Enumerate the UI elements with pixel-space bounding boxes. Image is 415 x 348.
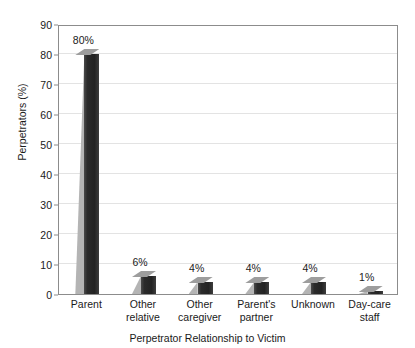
x-tick-label-line: Day-care xyxy=(335,298,405,311)
bar-group: 80% xyxy=(59,26,116,294)
y-tick-mark xyxy=(54,295,58,296)
y-tick-mark xyxy=(54,55,58,56)
x-axis-title: Perpetrator Relationship to Victim xyxy=(0,332,415,344)
bar-side-face xyxy=(75,54,84,294)
bar-value-label: 4% xyxy=(280,262,340,274)
bar-front-face xyxy=(311,282,326,294)
bar-side-face xyxy=(245,282,254,294)
cropped-title-remnant: · · · · xyxy=(0,0,415,3)
bar-front-face xyxy=(198,282,213,294)
y-tick-mark xyxy=(54,85,58,86)
y-tick-label: 70 xyxy=(22,79,52,91)
x-tick-label-line: staff xyxy=(335,311,405,324)
bar-group: 4% xyxy=(286,26,343,294)
bar-value-label: 6% xyxy=(110,256,170,268)
bar-front-face xyxy=(254,282,269,294)
bar xyxy=(254,282,269,294)
bar xyxy=(198,282,213,294)
y-tick-mark xyxy=(54,145,58,146)
y-tick-mark xyxy=(54,25,58,26)
bar xyxy=(141,276,156,294)
y-tick-mark xyxy=(54,235,58,236)
bar-front-face xyxy=(141,276,156,294)
bar-group: 6% xyxy=(116,26,173,294)
y-tick-label: 10 xyxy=(22,259,52,271)
y-tick-label: 40 xyxy=(22,169,52,181)
bar-value-label: 80% xyxy=(53,34,113,46)
bar-group: 1% xyxy=(342,26,399,294)
plot-area: 80%6%4%4%4%1% xyxy=(58,25,398,295)
y-tick-mark xyxy=(54,115,58,116)
x-tick-label-line: partner xyxy=(221,311,291,324)
bar-value-label: 4% xyxy=(167,262,227,274)
y-tick-mark xyxy=(54,205,58,206)
bar xyxy=(368,291,383,294)
y-tick-label: 90 xyxy=(22,19,52,31)
x-tick-label: Day-carestaff xyxy=(335,298,405,323)
bar-side-face xyxy=(302,282,311,294)
bar xyxy=(311,282,326,294)
y-tick-label: 0 xyxy=(22,289,52,301)
y-tick-mark xyxy=(54,175,58,176)
bar-value-label: 4% xyxy=(223,262,283,274)
bar-front-face xyxy=(84,54,99,294)
bar-group: 4% xyxy=(172,26,229,294)
bar-group: 4% xyxy=(229,26,286,294)
y-tick-label: 80 xyxy=(22,49,52,61)
bar-chart: · · · · Perpetrators (%) 80%6%4%4%4%1% 0… xyxy=(0,0,415,348)
y-tick-label: 20 xyxy=(22,229,52,241)
bar-side-face xyxy=(132,276,141,294)
y-tick-label: 30 xyxy=(22,199,52,211)
y-tick-label: 60 xyxy=(22,109,52,121)
y-tick-label: 50 xyxy=(22,139,52,151)
bar xyxy=(84,54,99,294)
y-tick-mark xyxy=(54,265,58,266)
bar-value-label: 1% xyxy=(337,271,397,283)
bar-side-face xyxy=(189,282,198,294)
